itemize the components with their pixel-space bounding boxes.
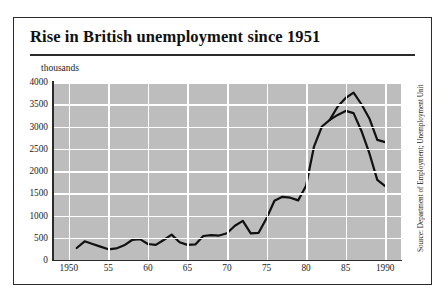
- x-axis: [52, 260, 402, 262]
- x-axis-tick-label: 70: [222, 263, 231, 273]
- y-axis-tick-label: 1500: [14, 188, 48, 198]
- data-series-line: [330, 93, 385, 142]
- plot-area: [53, 82, 401, 260]
- y-axis-tick-label: 1000: [14, 211, 48, 221]
- gridline-vertical: [267, 82, 269, 260]
- x-axis-tick-label: 1990: [376, 263, 395, 273]
- x-axis-tick-label: 55: [104, 263, 113, 273]
- gridline-vertical: [148, 82, 150, 260]
- gridline-vertical: [108, 82, 110, 260]
- data-series-line: [77, 111, 385, 249]
- y-axis-tick-label: 0: [14, 255, 48, 265]
- y-axis-tick-label: 500: [14, 233, 48, 243]
- page-title: Rise in British unemployment since 1951: [30, 27, 320, 47]
- gridline-vertical: [385, 82, 387, 260]
- y-axis: [52, 81, 54, 261]
- x-axis-tick-label: 85: [341, 263, 350, 273]
- x-axis-tick-label: 1950: [60, 263, 79, 273]
- y-axis-units-label: thousands: [41, 63, 79, 73]
- gridline-vertical: [187, 82, 189, 260]
- title-divider: [30, 54, 415, 56]
- gridline-vertical: [306, 82, 308, 260]
- y-axis-tick-label: 2000: [14, 166, 48, 176]
- gridline-vertical: [227, 82, 229, 260]
- x-axis-tick-label: 60: [143, 263, 152, 273]
- y-axis-tick-label: 3000: [14, 122, 48, 132]
- gridline-vertical: [346, 82, 348, 260]
- y-axis-tick-label: 4000: [14, 77, 48, 87]
- y-axis-tick-label: 3500: [14, 99, 48, 109]
- x-axis-tick-label: 80: [301, 263, 310, 273]
- chart-figure: Rise in British unemployment since 1951 …: [13, 17, 432, 285]
- gridline-vertical: [69, 82, 71, 260]
- x-axis-tick-label: 65: [183, 263, 192, 273]
- x-axis-tick-label: 75: [262, 263, 271, 273]
- source-note: Source: Department of Employment; Unempl…: [417, 66, 429, 252]
- y-axis-tick-label: 2500: [14, 144, 48, 154]
